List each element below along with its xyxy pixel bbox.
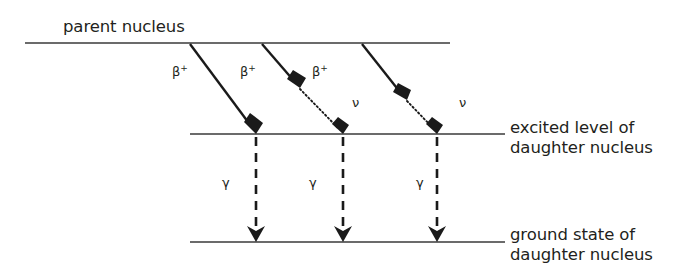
beta-3-arrowhead [426,117,443,134]
level-captions: parent nucleus excited level of daughter… [63,17,653,264]
gamma-label-2: γ [309,175,317,190]
beta-3-label-superscript: + [320,63,328,73]
gamma-3-arrowhead [428,226,446,242]
parent-nucleus-label: parent nucleus [63,17,185,36]
neutrino-label-1: ν [352,95,359,110]
gamma-2-arrowhead [334,226,352,242]
beta-1-solid-segment [190,44,251,126]
beta-2-arrowhead [332,117,349,134]
beta-3-label: β+ [312,63,328,79]
beta-2-label: β+ [240,63,256,79]
beta-2-dotted-segment [300,89,338,128]
excited-level-label-line1: excited level of [510,118,635,137]
transition-beta-2 [262,44,349,134]
diagram-canvas: β+ β+ β+ ν ν γ γ γ parent nucleus excite… [0,0,684,277]
ground-state-label-line2: daughter nucleus [510,245,653,264]
gamma-label-1: γ [222,175,230,190]
gamma-label-3: γ [416,175,424,190]
neutrino-labels: ν ν [352,95,466,110]
decay-scheme-diagram: β+ β+ β+ ν ν γ γ γ parent nucleus excite… [0,0,684,277]
transition-beta-3 [362,44,443,134]
ground-state-label-line1: ground state of [510,225,636,244]
beta-2-label-symbol: β [240,64,248,79]
beta-2-solid-segment [262,44,294,81]
beta-1-label-superscript: + [180,63,188,73]
beta-1-arrowhead [244,113,263,134]
beta-1-label-symbol: β [172,64,180,79]
beta-3-solid-segment [362,44,400,92]
beta-labels: β+ β+ β+ [172,63,328,79]
gamma-1-arrowhead [247,226,265,242]
gamma-labels: γ γ γ [222,175,424,190]
beta-1-label: β+ [172,63,188,79]
transition-beta-1 [190,44,263,134]
beta-2-label-superscript: + [248,63,256,73]
neutrino-label-2: ν [459,95,466,110]
excited-level-label-line2: daughter nucleus [510,138,653,157]
energy-levels [25,43,505,242]
beta-3-label-symbol: β [312,64,320,79]
beta-2-mid-arrowhead [287,70,306,88]
